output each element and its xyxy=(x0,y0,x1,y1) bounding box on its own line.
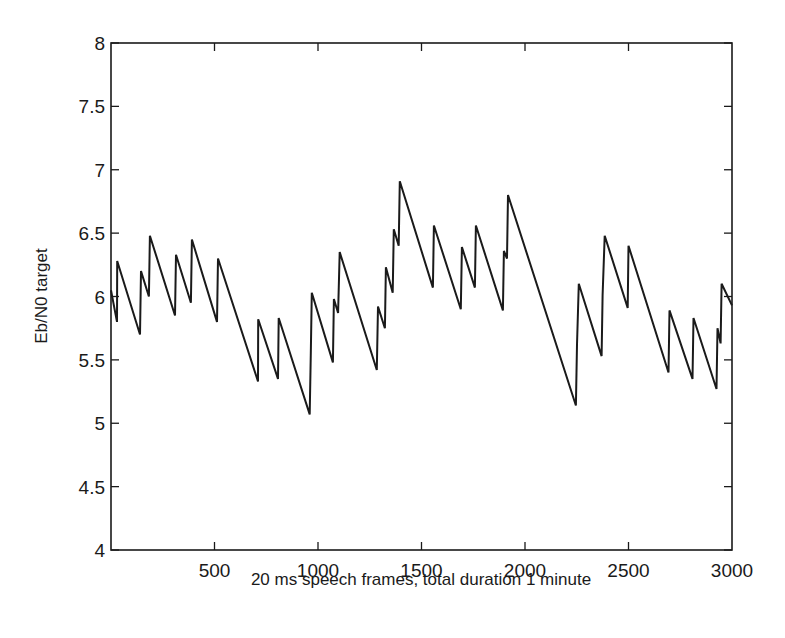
x-tick-label: 500 xyxy=(199,560,231,581)
y-axis-ticks: 44.555.566.577.58 xyxy=(79,33,732,561)
y-tick-label: 6.5 xyxy=(79,223,105,244)
y-axis-label: Eb/N0 target xyxy=(32,248,51,344)
y-tick-label: 4.5 xyxy=(79,477,105,498)
y-tick-label: 4 xyxy=(94,540,105,561)
x-axis-label: 20 ms speech frames, total duration 1 mi… xyxy=(251,570,591,589)
y-tick-label: 8 xyxy=(94,33,105,54)
x-tick-label: 3000 xyxy=(711,560,753,581)
y-tick-label: 5 xyxy=(94,413,105,434)
plot-frame xyxy=(111,43,732,550)
eb-n0-target-line xyxy=(111,181,732,414)
y-tick-label: 7.5 xyxy=(79,96,105,117)
y-tick-label: 7 xyxy=(94,160,105,181)
y-tick-label: 6 xyxy=(94,287,105,308)
y-tick-label: 5.5 xyxy=(79,350,105,371)
chart-canvas: 44.555.566.577.58 5001000150020002500300… xyxy=(0,0,785,638)
x-tick-label: 2500 xyxy=(607,560,649,581)
